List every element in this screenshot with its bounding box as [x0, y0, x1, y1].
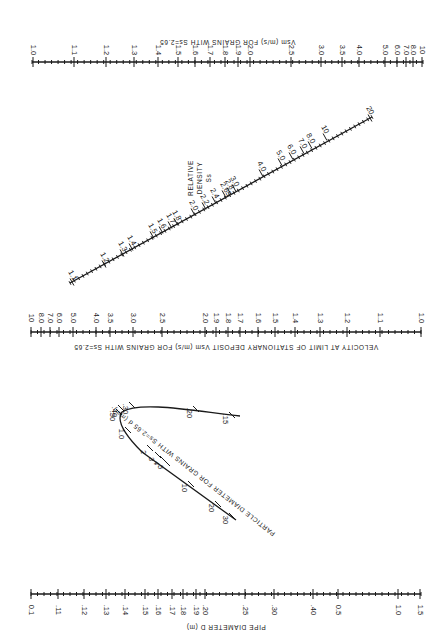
tick-label: 1.1 [376, 313, 385, 323]
tick-label: 5.0 [274, 149, 287, 163]
tick-label: 1.3 [130, 45, 139, 55]
tick-label: 1.7 [236, 313, 245, 323]
tick-label: .14 [121, 605, 130, 615]
tick-label: 1.1 [70, 45, 79, 55]
vsm-middle-scale: 108.07.06.05.04.03.53.02.52.01.91.81.71.… [27, 313, 426, 351]
tick-label: .20 [201, 605, 210, 615]
tick-label: 1.0 [417, 313, 426, 323]
tick-label: 8.0 [409, 45, 418, 55]
tick-label: 20 [207, 504, 216, 512]
tick-label: .11 [54, 605, 63, 615]
tick-label: 3.5 [338, 45, 347, 55]
tick-label: 0.1 [27, 605, 36, 615]
tick-label: 10 [180, 484, 189, 492]
tick-label: 3.5 [106, 313, 115, 323]
tick-label: 4.0 [255, 160, 268, 174]
tick-label: .15 [141, 605, 150, 615]
tick-label: 1.0 [394, 605, 403, 615]
tick-label: .30 [270, 605, 279, 615]
scale-title: Vsm (m/s) FOR GRAINS WITH Ss=2.65 [160, 38, 296, 46]
tick-label: 4.0 [92, 313, 101, 323]
scale-title: VELOCITY AT LIMIT OF STATIONARY DEPOSIT … [74, 343, 378, 351]
tick-label: 2.0 [201, 313, 210, 323]
tick-label: .16 [154, 605, 163, 615]
tick-label: 5.0 [381, 45, 390, 55]
tick-label: 0.5 [334, 605, 343, 615]
tick-label: 5.0 [69, 313, 78, 323]
particle-diameter-scale: .15.20.30.40.501.02345102030PARTICLE DIA… [108, 402, 277, 538]
tick-label: .25 [241, 605, 250, 615]
tick-label: .17 [168, 605, 177, 615]
tick-label: 3.0 [129, 313, 138, 323]
tick-label: 1.0 [117, 429, 126, 439]
tick-label: 20 [364, 105, 376, 117]
tick-label: 2.5 [158, 313, 167, 323]
tick-label: 1.1 [66, 269, 79, 283]
tick-label: 10 [418, 46, 427, 54]
tick-label: 3.0 [317, 45, 326, 55]
tick-label: .20 [185, 408, 194, 418]
tick-label: 1.4 [291, 313, 300, 323]
tick-label: 8.0 [37, 313, 46, 323]
tick-label: 1.6 [254, 313, 263, 323]
density-title: Ss [205, 173, 212, 182]
tick-label: 5 [156, 465, 165, 469]
nomograph: 1.01.11.21.31.41.51.61.71.81.92.02.53.03… [0, 0, 445, 641]
tick-label: 1.2 [102, 45, 111, 55]
tick-label: 2.0 [187, 199, 200, 213]
tick-label: 1.8 [224, 313, 233, 323]
tick-label: 1.0 [29, 45, 38, 55]
relative-density-scale: 1.11.21.31.41.51.61.71.82.02.22.42.652.8… [66, 105, 376, 286]
tick-label: .12 [80, 605, 89, 615]
tick-label: 6.0 [393, 45, 402, 55]
tick-label: .40 [309, 605, 318, 615]
tick-label: .19 [192, 605, 201, 615]
tick-label: 1.9 [212, 313, 221, 323]
tick-label: .18 [179, 605, 188, 615]
tick-label: 6.0 [55, 313, 64, 323]
density-title: DENSITY [196, 162, 203, 194]
scale-title: PIPE DIAMETER D (m) [186, 623, 266, 631]
tick-label: 1.5 [416, 605, 425, 615]
tick-label: 30 [221, 516, 230, 524]
tick-label: 10 [319, 124, 331, 136]
tick-label: 2 [139, 450, 148, 454]
density-title: RELATIVE [187, 160, 194, 196]
tick-label: 7.0 [46, 313, 55, 323]
particle-title: PARTICLE DIAMETER FOR GRAINS WITH Ss=2.6… [111, 406, 277, 538]
vsm-top-scale: 1.01.11.21.31.41.51.61.71.81.92.02.53.03… [29, 38, 427, 67]
tick-label: .15 [221, 414, 230, 424]
pipe-diameter-scale: 0.1.11.12.13.14.15.16.17.18.19.20.25.30.… [27, 589, 425, 631]
tick-label: 1.2 [343, 313, 352, 323]
tick-label: 6.0 [285, 143, 298, 157]
tick-label: 1.3 [316, 313, 325, 323]
tick-label: 1.5 [271, 313, 280, 323]
tick-label: .13 [102, 605, 111, 615]
tick-label: 10 [27, 314, 36, 322]
tick-label: 4.0 [355, 45, 364, 55]
